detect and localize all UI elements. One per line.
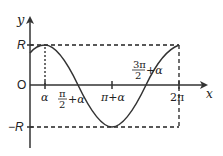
sine-curve <box>30 45 179 127</box>
x-axis-label: x <box>206 87 213 101</box>
svg-text:2: 2 <box>59 99 65 110</box>
svg-text:3π: 3π <box>133 59 146 70</box>
pi-alpha-tick-label: π+α <box>100 91 125 104</box>
svg-text:+α: +α <box>68 93 85 106</box>
svg-text:2: 2 <box>135 70 141 81</box>
y-axis-label: y <box>16 12 25 27</box>
reference-lines <box>30 45 179 127</box>
sinusoid-diagram: y x O R −R α π 2 +α π+α 3π 2 +α 2π <box>0 0 223 156</box>
two-pi-tick-label: 2π <box>170 91 184 104</box>
neg-r-label: −R <box>8 120 24 134</box>
origin-label: O <box>17 78 26 92</box>
svg-text:π: π <box>59 88 66 99</box>
r-label: R <box>17 38 26 52</box>
alpha-tick-label: α <box>41 91 49 104</box>
svg-text:+α: +α <box>146 64 163 77</box>
